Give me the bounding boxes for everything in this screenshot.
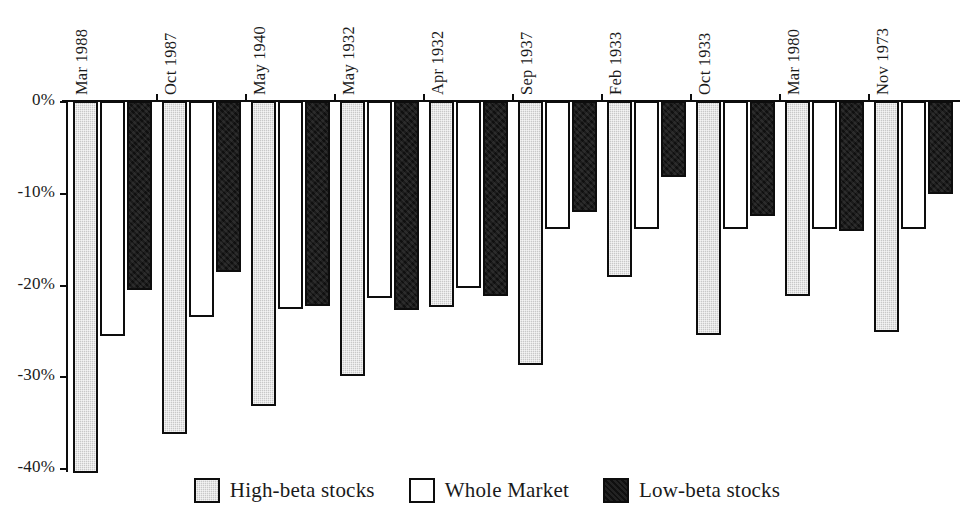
legend-label-low-beta: Low-beta stocks <box>639 478 780 503</box>
bar-whole-market <box>100 101 125 336</box>
x-axis-tick-label: Mar 1988 <box>72 29 92 95</box>
y-axis-tick-label: 0% <box>32 90 55 110</box>
y-axis-tick: -30% <box>60 376 67 378</box>
x-axis-tick-label: Nov 1973 <box>873 28 893 95</box>
bar-whole-market <box>812 101 837 229</box>
bar-low-beta <box>572 101 597 212</box>
bar-group: Mar 1980 <box>785 101 864 473</box>
bar-low-beta <box>661 101 686 177</box>
bar-low-beta <box>305 101 330 306</box>
plot-area: Mar 1988Oct 1987May 1940May 1932Apr 1932… <box>68 101 958 473</box>
bar-whole-market <box>367 101 392 298</box>
y-axis-tick: 0% <box>60 101 67 103</box>
bar-group: May 1940 <box>251 101 330 473</box>
bar-group: Oct 1933 <box>696 101 775 473</box>
x-axis-tick <box>245 94 247 101</box>
bar-whole-market <box>456 101 481 288</box>
bar-group: Nov 1973 <box>874 101 953 473</box>
y-axis-tick-label: -20% <box>17 274 55 294</box>
chart-legend: High-beta stocks Whole Market Low-beta s… <box>0 478 974 503</box>
bar-whole-market <box>634 101 659 229</box>
white-swatch <box>409 478 435 503</box>
bar-group: Feb 1933 <box>607 101 686 473</box>
bar-chart: 0%-10%-20%-30%-40% Mar 1988Oct 1987May 1… <box>0 0 974 526</box>
bar-high-beta <box>607 101 632 277</box>
bar-whole-market <box>545 101 570 229</box>
x-axis-tick <box>512 94 514 101</box>
y-axis-tick-label: -30% <box>17 365 55 385</box>
x-axis-tick <box>156 94 158 101</box>
legend-item-high-beta: High-beta stocks <box>194 478 375 503</box>
y-axis-tick: -20% <box>60 285 67 287</box>
bar-low-beta <box>750 101 775 216</box>
bar-group: May 1932 <box>340 101 419 473</box>
y-axis-tick-label: -40% <box>17 457 55 477</box>
bar-high-beta <box>518 101 543 365</box>
legend-label-high-beta: High-beta stocks <box>230 478 375 503</box>
legend-item-whole-market: Whole Market <box>409 478 569 503</box>
bar-low-beta <box>394 101 419 310</box>
bar-group: Sep 1937 <box>518 101 597 473</box>
bar-low-beta <box>839 101 864 231</box>
y-axis-tick: -40% <box>60 468 67 470</box>
x-axis-tick-label: Mar 1980 <box>784 29 804 95</box>
x-axis-tick-label: May 1940 <box>250 26 270 95</box>
y-axis-tick-label: -10% <box>17 182 55 202</box>
bar-low-beta <box>928 101 953 194</box>
x-axis-tick <box>601 94 603 101</box>
bar-high-beta <box>73 101 98 473</box>
bar-whole-market <box>723 101 748 229</box>
bar-low-beta <box>127 101 152 290</box>
bar-high-beta <box>874 101 899 332</box>
x-axis-tick-label: Feb 1933 <box>606 32 626 95</box>
bar-low-beta <box>216 101 241 272</box>
bar-group: Apr 1932 <box>429 101 508 473</box>
bar-high-beta <box>429 101 454 307</box>
x-axis-tick-label: Sep 1937 <box>517 32 537 95</box>
bar-group: Mar 1988 <box>73 101 152 473</box>
bar-whole-market <box>278 101 303 309</box>
legend-label-whole-market: Whole Market <box>445 478 569 503</box>
x-axis-tick-label: May 1932 <box>339 26 359 95</box>
bar-high-beta <box>696 101 721 335</box>
x-axis-tick-label: Oct 1933 <box>695 32 715 95</box>
x-axis-tick <box>779 94 781 101</box>
bar-low-beta <box>483 101 508 296</box>
bar-whole-market <box>189 101 214 317</box>
bar-group: Oct 1987 <box>162 101 241 473</box>
x-axis-tick-label: Apr 1932 <box>428 31 448 95</box>
bar-high-beta <box>785 101 810 296</box>
x-axis-tick <box>423 94 425 101</box>
bar-high-beta <box>251 101 276 406</box>
x-axis-tick <box>334 94 336 101</box>
bar-whole-market <box>901 101 926 229</box>
legend-item-low-beta: Low-beta stocks <box>603 478 780 503</box>
black-swatch <box>603 478 629 503</box>
bar-high-beta <box>162 101 187 434</box>
y-axis-tick: -10% <box>60 193 67 195</box>
x-axis-tick <box>868 94 870 101</box>
gray-hatched-swatch <box>194 478 220 503</box>
x-axis-tick-label: Oct 1987 <box>161 32 181 95</box>
bar-high-beta <box>340 101 365 376</box>
x-axis-tick <box>690 94 692 101</box>
